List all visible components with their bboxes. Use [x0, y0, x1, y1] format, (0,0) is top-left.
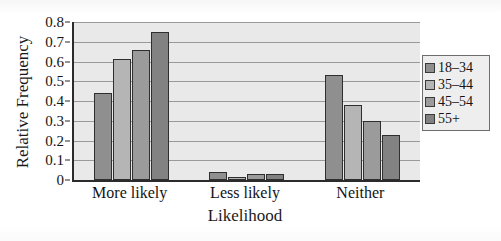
- x-tick-label: Neither: [336, 184, 384, 202]
- y-tick-mark: [65, 101, 70, 102]
- legend-item: 35–44: [425, 76, 486, 93]
- y-tick-label: 0.4: [45, 93, 64, 110]
- x-tick-label: More likely: [92, 184, 167, 202]
- bar: [113, 59, 131, 180]
- legend-item: 18–34: [425, 59, 486, 76]
- bar-group: [305, 22, 420, 180]
- y-tick-mark: [65, 180, 70, 181]
- x-axis-tick-labels: More likelyLess likelyNeither: [72, 184, 418, 206]
- plot-area: [72, 22, 420, 182]
- bar: [382, 135, 400, 180]
- bar: [363, 121, 381, 180]
- y-tick-mark: [65, 81, 70, 82]
- y-tick-mark: [65, 120, 70, 121]
- y-tick-label: 0.6: [45, 53, 64, 70]
- y-tick-label: 0.7: [45, 33, 64, 50]
- legend-label: 18–34: [438, 61, 473, 75]
- bar: [132, 50, 150, 180]
- legend-swatch-icon: [425, 80, 435, 90]
- y-tick-label: 0.5: [45, 73, 64, 90]
- bar: [94, 93, 112, 180]
- bar: [228, 177, 246, 180]
- bar-group: [189, 22, 304, 180]
- y-tick-mark: [65, 61, 70, 62]
- y-tick-mark: [65, 22, 70, 23]
- y-tick-label: 0.8: [45, 14, 64, 31]
- relative-frequency-bar-chart: Relative Frequency 00.10.20.30.40.50.60.…: [0, 0, 501, 241]
- legend-label: 45–54: [438, 95, 473, 109]
- bar: [266, 174, 284, 180]
- legend-swatch-icon: [425, 63, 435, 73]
- y-tick-mark: [65, 140, 70, 141]
- bar: [247, 174, 265, 180]
- legend-item: 45–54: [425, 93, 486, 110]
- y-tick-label: 0.2: [45, 132, 64, 149]
- legend-item: 55+: [425, 110, 486, 127]
- bar-group: [74, 22, 189, 180]
- x-tick-label: Less likely: [210, 184, 280, 202]
- bar: [344, 105, 362, 180]
- bar: [325, 75, 343, 180]
- legend-label: 35–44: [438, 78, 473, 92]
- y-tick-mark: [65, 160, 70, 161]
- y-tick-mark: [65, 41, 70, 42]
- legend-label: 55+: [438, 112, 460, 126]
- legend: 18–3435–4445–5455+: [422, 55, 490, 131]
- legend-swatch-icon: [425, 97, 435, 107]
- bar: [209, 172, 227, 180]
- legend-swatch-icon: [425, 114, 435, 124]
- x-axis-title: Likelihood: [72, 206, 418, 226]
- y-tick-label: 0.3: [45, 112, 64, 129]
- y-axis-tick-labels: 00.10.20.30.40.50.60.70.8: [26, 22, 70, 180]
- y-tick-label: 0: [57, 172, 65, 189]
- bar: [151, 32, 169, 180]
- y-tick-label: 0.1: [45, 152, 64, 169]
